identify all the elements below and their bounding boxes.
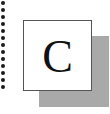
- dot: [1, 29, 5, 33]
- letter-c-glyph: C: [42, 34, 73, 80]
- dot: [1, 57, 5, 61]
- dot: [1, 22, 5, 26]
- dot: [1, 50, 5, 54]
- dot: [1, 78, 5, 82]
- letter-card: C: [23, 20, 92, 91]
- dot: [1, 43, 5, 47]
- dot: [1, 15, 5, 19]
- dot: [1, 85, 5, 89]
- dot: [1, 64, 5, 68]
- dot: [1, 36, 5, 40]
- dot: [1, 8, 5, 12]
- dot: [1, 1, 5, 5]
- dot: [1, 71, 5, 75]
